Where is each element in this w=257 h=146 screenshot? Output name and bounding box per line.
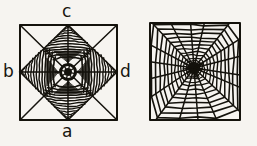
spider-web-figure: c a b d [0,0,257,146]
left-web-panel: c a b d [0,0,135,146]
right-web-drawing [135,0,257,146]
label-d: d [120,63,131,80]
left-web-hub [59,63,77,81]
label-c: c [62,3,71,20]
right-web-panel [135,0,257,146]
label-a: a [62,123,72,140]
label-b: b [3,63,14,80]
